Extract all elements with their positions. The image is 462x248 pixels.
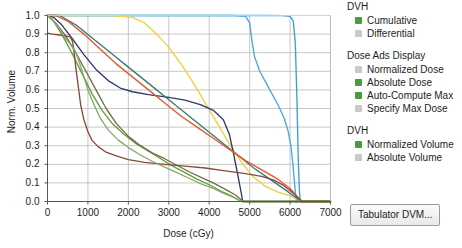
y-tick-label: 0.3 bbox=[12, 141, 40, 151]
checked-swatch-icon bbox=[355, 141, 362, 148]
option-group: DVHNormalized VolumeAbsolute Volume bbox=[345, 124, 462, 164]
dvh-chart: Norm. Volume Dose (cGy) 0.00.10.20.30.40… bbox=[0, 0, 340, 248]
option-item-specify-max-dose[interactable]: Specify Max Dose bbox=[355, 102, 462, 115]
checked-swatch-icon bbox=[355, 92, 362, 99]
y-tick-label: 0.2 bbox=[12, 159, 40, 169]
x-axis-title: Dose (cGy) bbox=[47, 228, 330, 239]
unchecked-swatch-icon bbox=[355, 105, 362, 112]
y-tick-label: 0.0 bbox=[12, 197, 40, 207]
option-item-absolute-volume[interactable]: Absolute Volume bbox=[355, 151, 462, 164]
x-tick-label: 5000 bbox=[230, 208, 270, 218]
option-item-cumulative[interactable]: Cumulative bbox=[355, 14, 462, 27]
option-group-title: DVH bbox=[347, 124, 462, 137]
x-tick-label: 3000 bbox=[149, 208, 189, 218]
y-tick-label: 0.6 bbox=[12, 85, 40, 95]
y-axis-title-wrap: Norm. Volume bbox=[0, 0, 12, 248]
option-item-normalized-dose[interactable]: Normalized Dose bbox=[355, 63, 462, 76]
option-group-title: DVH bbox=[347, 0, 462, 13]
option-label: Absolute Dose bbox=[367, 76, 432, 89]
group-spacer bbox=[345, 40, 462, 49]
option-item-auto-compute-max[interactable]: Auto-Compute Max bbox=[355, 89, 462, 102]
option-label: Normalized Dose bbox=[367, 63, 444, 76]
option-group: Dose Ads DisplayNormalized DoseAbsolute … bbox=[345, 49, 462, 115]
unchecked-swatch-icon bbox=[355, 30, 362, 37]
x-tick-label: 4000 bbox=[189, 208, 229, 218]
option-label: Cumulative bbox=[367, 14, 417, 27]
option-group: DVHCumulativeDifferential bbox=[345, 0, 462, 40]
unchecked-swatch-icon bbox=[355, 66, 362, 73]
option-label: Differential bbox=[367, 27, 415, 40]
option-label: Absolute Volume bbox=[367, 151, 442, 164]
dvh-panel-screen: Norm. Volume Dose (cGy) 0.00.10.20.30.40… bbox=[0, 0, 462, 248]
checked-swatch-icon bbox=[355, 79, 362, 86]
y-tick-label: 0.8 bbox=[12, 48, 40, 58]
option-item-normalized-volume[interactable]: Normalized Volume bbox=[355, 138, 462, 151]
x-tick-label: 6000 bbox=[270, 208, 310, 218]
y-tick-label: 0.9 bbox=[12, 29, 40, 39]
option-label: Specify Max Dose bbox=[367, 102, 448, 115]
options-panel: DVHCumulativeDifferentialDose Ads Displa… bbox=[345, 0, 462, 248]
checked-swatch-icon bbox=[355, 17, 362, 24]
y-tick-label: 0.5 bbox=[12, 104, 40, 114]
option-item-absolute-dose[interactable]: Absolute Dose bbox=[355, 76, 462, 89]
option-group-title: Dose Ads Display bbox=[347, 49, 462, 62]
y-tick-label: 1.0 bbox=[12, 11, 40, 21]
y-tick-label: 0.7 bbox=[12, 66, 40, 76]
options-groups: DVHCumulativeDifferentialDose Ads Displa… bbox=[345, 0, 462, 164]
y-tick-label: 0.4 bbox=[12, 122, 40, 132]
x-tick-label: 0 bbox=[28, 208, 68, 218]
option-item-differential[interactable]: Differential bbox=[355, 27, 462, 40]
unchecked-swatch-icon bbox=[355, 154, 362, 161]
x-tick-label: 2000 bbox=[108, 208, 148, 218]
y-tick-label: 0.1 bbox=[12, 178, 40, 188]
group-spacer bbox=[345, 115, 462, 124]
option-label: Normalized Volume bbox=[367, 138, 454, 151]
tabulator-dvm-button[interactable]: Tabulator DVM... bbox=[350, 204, 440, 226]
option-label: Auto-Compute Max bbox=[367, 89, 453, 102]
x-tick-label: 1000 bbox=[68, 208, 108, 218]
